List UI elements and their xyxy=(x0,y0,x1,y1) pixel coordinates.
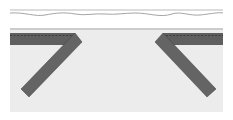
wavy-cut-line xyxy=(10,13,223,16)
binding-diagram xyxy=(0,0,233,120)
